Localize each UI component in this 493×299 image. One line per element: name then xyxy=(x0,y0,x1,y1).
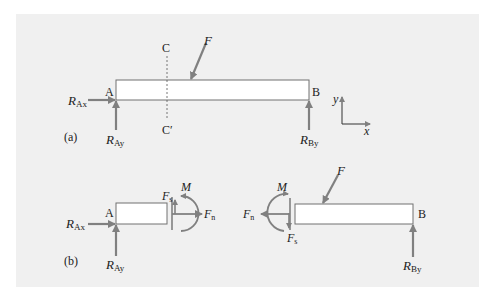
part-a: C C′ F A B RAx RAy RBy (a) y x xyxy=(64,33,370,148)
left-segment-beam xyxy=(116,203,167,224)
force-f-label: F xyxy=(203,33,213,48)
left-point-a-label: A xyxy=(105,206,114,220)
right-force-f-arrow xyxy=(323,175,338,203)
reaction-by-label: RBy xyxy=(299,132,319,148)
beam xyxy=(116,80,309,100)
axis-x-label: x xyxy=(363,124,370,138)
force-f-arrow xyxy=(191,43,206,79)
right-segment-beam xyxy=(295,204,413,224)
left-normal-label: Fn xyxy=(203,207,215,222)
right-point-b-label: B xyxy=(418,207,426,221)
right-reaction-by-label: RBy xyxy=(402,258,422,274)
right-moment-label: M xyxy=(276,180,288,194)
section-label-c: C xyxy=(162,41,170,55)
free-body-diagram: C C′ F A B RAx RAy RBy (a) y x Fs M Fn A xyxy=(0,0,493,299)
reaction-ay-label: RAy xyxy=(105,132,125,148)
coordinate-axes: y x xyxy=(332,92,370,138)
point-b-label: B xyxy=(312,85,320,99)
part-b-label: (b) xyxy=(64,254,78,268)
reaction-ax-label: RAx xyxy=(67,93,87,109)
point-a-label: A xyxy=(105,85,114,99)
left-moment-label: M xyxy=(180,180,192,194)
right-normal-label: Fn xyxy=(242,207,254,222)
axis-y-label: y xyxy=(332,92,339,106)
right-moment-arc xyxy=(267,194,288,231)
part-a-label: (a) xyxy=(64,130,77,144)
left-reaction-ax-label: RAx xyxy=(65,216,85,232)
part-b-right: F Fs M Fn B RBy xyxy=(242,163,426,274)
right-force-f-label: F xyxy=(336,163,346,178)
section-label-c-prime: C′ xyxy=(162,123,173,137)
right-shear-label: Fs xyxy=(286,231,297,246)
left-shear-label: Fs xyxy=(161,189,172,204)
part-b-left: Fs M Fn A RAx RAy (b) xyxy=(64,180,215,273)
left-reaction-ay-label: RAy xyxy=(105,257,125,273)
